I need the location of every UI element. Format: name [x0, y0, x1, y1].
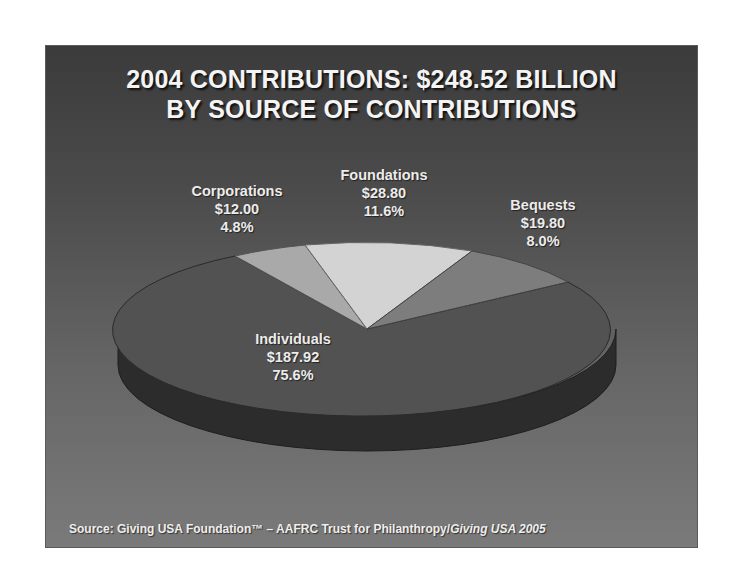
label-bequests-amount: $19.80 [510, 214, 575, 232]
label-individuals-amount: $187.92 [255, 348, 331, 366]
label-foundations-amount: $28.80 [341, 184, 428, 202]
label-bequests-name: Bequests [510, 196, 575, 214]
label-individuals-name: Individuals [255, 330, 331, 348]
label-bequests: Bequests $19.80 8.0% [510, 196, 575, 250]
label-foundations-name: Foundations [341, 166, 428, 184]
label-foundations: Foundations $28.80 11.6% [341, 166, 428, 220]
source-publication: Giving USA 2005 [450, 522, 546, 536]
pie-chart [0, 0, 742, 588]
label-individuals: Individuals $187.92 75.6% [255, 330, 331, 384]
label-corporations-percent: 4.8% [191, 218, 282, 236]
label-foundations-percent: 11.6% [341, 202, 428, 220]
label-individuals-percent: 75.6% [255, 366, 331, 384]
label-bequests-percent: 8.0% [510, 232, 575, 250]
source-prefix: Source: Giving USA Foundation™ – AAFRC T… [69, 522, 450, 536]
label-corporations: Corporations $12.00 4.8% [191, 182, 282, 236]
label-corporations-amount: $12.00 [191, 200, 282, 218]
label-corporations-name: Corporations [191, 182, 282, 200]
source-note: Source: Giving USA Foundation™ – AAFRC T… [69, 522, 546, 536]
